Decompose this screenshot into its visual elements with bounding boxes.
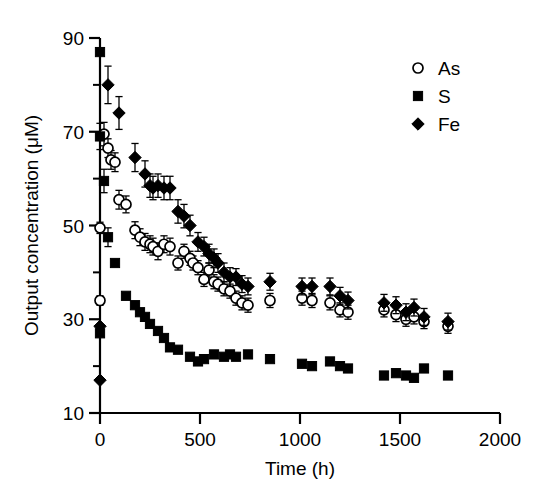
- marker-filled-square: [209, 350, 218, 359]
- marker-filled-diamond: [139, 168, 151, 180]
- x-tick-label: 1000: [279, 429, 321, 450]
- marker-filled-square: [121, 291, 130, 300]
- marker-filled-diamond: [94, 374, 106, 386]
- marker-filled-square: [159, 333, 168, 342]
- x-tick-label: 500: [184, 429, 216, 450]
- marker-open-circle: [325, 298, 335, 308]
- y-axis-title: Output concentration (μM): [21, 115, 42, 336]
- x-tick-label: 1500: [379, 429, 421, 450]
- marker-filled-square: [379, 371, 388, 380]
- marker-filled-square: [103, 233, 112, 242]
- y-tick-label: 30: [63, 309, 84, 330]
- marker-filled-square: [265, 354, 274, 363]
- marker-filled-square: [173, 345, 182, 354]
- marker-open-circle: [103, 143, 113, 153]
- y-tick-label: 90: [63, 28, 84, 49]
- legend-label-as: As: [438, 58, 460, 79]
- marker-open-circle: [165, 242, 175, 252]
- data-points-layer: [94, 47, 454, 386]
- marker-filled-diamond: [129, 151, 141, 163]
- chart-legend: AsSFe: [412, 58, 460, 135]
- legend-item-as[interactable]: As: [413, 58, 460, 79]
- marker-filled-square: [419, 364, 428, 373]
- marker-open-circle: [413, 63, 423, 73]
- marker-open-circle: [199, 274, 209, 284]
- marker-filled-diamond: [102, 79, 114, 91]
- marker-filled-square: [99, 176, 108, 185]
- legend-label-s: S: [438, 86, 451, 107]
- marker-filled-square: [110, 258, 119, 267]
- marker-open-circle: [95, 296, 105, 306]
- marker-open-circle: [95, 223, 105, 233]
- y-tick-label: 50: [63, 216, 84, 237]
- marker-open-circle: [265, 296, 275, 306]
- marker-open-circle: [193, 263, 203, 273]
- series-s: [95, 47, 452, 382]
- chart-figure: AsSFe 10305070900500100015002000Time (h)…: [0, 0, 543, 495]
- x-tick-label: 2000: [479, 429, 521, 450]
- marker-filled-diamond: [390, 299, 402, 311]
- marker-filled-square: [297, 359, 306, 368]
- marker-open-circle: [110, 157, 120, 167]
- marker-filled-diamond: [113, 107, 125, 119]
- marker-filled-square: [443, 371, 452, 380]
- marker-filled-square: [231, 352, 240, 361]
- marker-filled-diamond: [412, 118, 424, 130]
- marker-filled-diamond: [264, 276, 276, 288]
- marker-filled-square: [243, 350, 252, 359]
- marker-filled-diamond: [306, 280, 318, 292]
- marker-filled-square: [95, 132, 104, 141]
- marker-filled-square: [391, 369, 400, 378]
- marker-filled-square: [199, 354, 208, 363]
- marker-open-circle: [121, 199, 131, 209]
- x-tick-label: 0: [95, 429, 106, 450]
- series-fe: [94, 66, 454, 386]
- legend-label-fe: Fe: [438, 114, 460, 135]
- marker-filled-diamond: [324, 280, 336, 292]
- marker-filled-square: [307, 362, 316, 371]
- y-tick-label: 70: [63, 122, 84, 143]
- marker-open-circle: [307, 296, 317, 306]
- marker-open-circle: [173, 258, 183, 268]
- legend-item-fe[interactable]: Fe: [412, 114, 460, 135]
- scatter-plot-canvas: AsSFe 10305070900500100015002000Time (h)…: [0, 0, 543, 495]
- marker-filled-square: [343, 364, 352, 373]
- marker-open-circle: [204, 265, 214, 275]
- x-axis-title: Time (h): [265, 458, 335, 479]
- marker-filled-square: [95, 47, 104, 56]
- marker-filled-square: [413, 91, 422, 100]
- marker-open-circle: [243, 300, 253, 310]
- legend-item-s[interactable]: S: [413, 86, 450, 107]
- marker-filled-square: [325, 357, 334, 366]
- y-tick-label: 10: [63, 403, 84, 424]
- marker-filled-square: [409, 373, 418, 382]
